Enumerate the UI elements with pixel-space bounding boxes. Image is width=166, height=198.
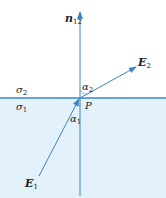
refraction-diagram: n12 E2 E1 α2 α1 σ2 σ1 P — [0, 0, 166, 198]
sigma2-label: σ2 — [16, 84, 27, 97]
alpha2-label: α2 — [82, 81, 93, 94]
e2-label: E2 — [137, 56, 151, 70]
normal-label: n12 — [65, 12, 82, 26]
point-p-label: P — [84, 100, 92, 111]
diagram-canvas: n12 E2 E1 α2 α1 σ2 σ1 P — [0, 0, 166, 198]
